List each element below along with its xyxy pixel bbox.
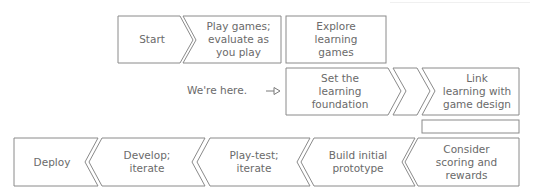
step-deploy-label: Deploy — [14, 138, 90, 186]
empty-bar — [422, 120, 519, 133]
step-explore-label: Explore learning games — [286, 16, 386, 63]
step-play-games-label: Play games; evaluate as you play — [196, 16, 281, 63]
step-set-foundation-label: Set the learning foundation — [286, 68, 394, 115]
we-are-here-note: We're here. — [187, 84, 247, 96]
step-develop-label: Develop; iterate — [96, 138, 198, 186]
step-consider-scoring-label: Consider scoring and rewards — [414, 138, 519, 186]
step-start-label: Start — [118, 16, 186, 63]
step-link-learning-label: Link learning with game design — [432, 68, 522, 115]
hollow-arrow-right-icon — [266, 88, 280, 95]
step-build-prototype-label: Build initial prototype — [308, 138, 408, 186]
step-play-test-label: Play-test; iterate — [204, 138, 304, 186]
